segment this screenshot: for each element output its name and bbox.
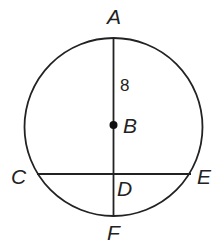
label-b: B <box>123 114 137 137</box>
label-e: E <box>197 165 212 188</box>
measure-ab: 8 <box>120 76 129 95</box>
label-d: D <box>117 177 132 200</box>
label-a: A <box>105 5 121 28</box>
center-point-b <box>110 121 118 129</box>
circle-diagram: A 8 B C D E F <box>0 0 224 251</box>
label-c: C <box>11 165 27 188</box>
label-f: F <box>107 221 121 244</box>
